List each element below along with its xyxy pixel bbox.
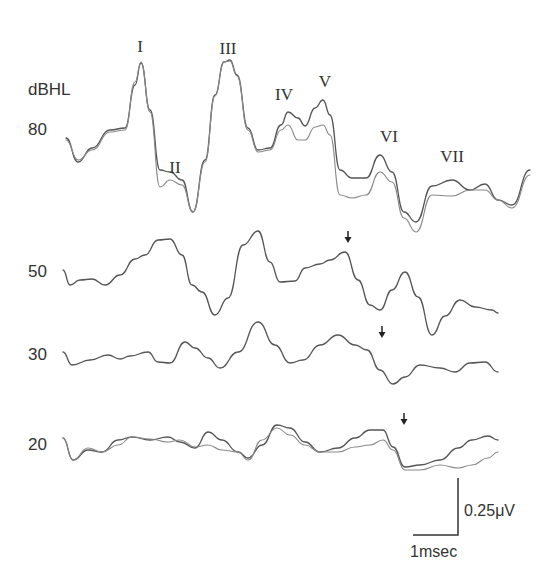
waveform-20db bbox=[63, 425, 498, 467]
units-label: dBHL bbox=[28, 80, 71, 100]
waveform-30db bbox=[63, 322, 498, 384]
peak-label-III: III bbox=[220, 39, 237, 59]
scale-time-label: 1msec bbox=[410, 543, 457, 561]
level-label-20: 20 bbox=[28, 435, 47, 455]
peak-label-I: I bbox=[137, 37, 143, 57]
scale-bar bbox=[413, 478, 458, 535]
peak-label-VI: VI bbox=[380, 127, 398, 147]
peak-label-VII: VII bbox=[440, 147, 464, 167]
threshold-arrow-icon bbox=[379, 326, 386, 338]
threshold-arrow-icon bbox=[401, 413, 408, 425]
level-label-50: 50 bbox=[28, 262, 47, 282]
waveform-80db bbox=[66, 60, 530, 222]
threshold-arrow-icon bbox=[345, 231, 352, 243]
waveform-20db bbox=[63, 428, 498, 470]
peak-label-IV: IV bbox=[275, 85, 293, 105]
waveform-50db bbox=[63, 231, 498, 335]
level-label-30: 30 bbox=[28, 345, 47, 365]
peak-label-V: V bbox=[319, 72, 331, 92]
level-label-80: 80 bbox=[28, 120, 47, 140]
peak-label-II: II bbox=[169, 158, 180, 178]
scale-voltage-label: 0.25μV bbox=[464, 502, 515, 520]
